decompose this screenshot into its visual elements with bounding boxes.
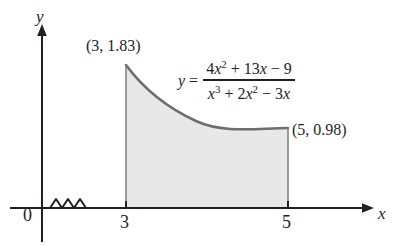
function-equation: y = 4x2 + 13x − 9 x3 + 2x2 − 3x <box>178 58 295 103</box>
axis-break-zigzag-icon <box>50 199 92 208</box>
numerator-const: 9 <box>284 60 292 77</box>
area-under-curve-figure: y x 0 3 5 (3, 1.83) (5, 0.98) y = 4x2 + … <box>0 0 394 246</box>
x-tick-label-3: 3 <box>120 213 129 231</box>
point-label-right: (5, 0.98) <box>292 122 347 138</box>
origin-label: 0 <box>23 206 32 224</box>
equation-lhs: y <box>178 72 189 90</box>
y-axis-label: y <box>36 8 44 25</box>
denominator-coef-3: 3 <box>275 85 283 102</box>
numerator-op-2: − <box>271 60 280 77</box>
equation-fraction: 4x2 + 13x − 9 x3 + 2x2 − 3x <box>203 58 295 103</box>
numerator-op-1-sym: + <box>231 60 240 77</box>
point-label-left: (3, 1.83) <box>86 38 141 54</box>
equation-equals-sign: = <box>189 72 203 90</box>
numerator-coef-1: 4 <box>206 60 214 77</box>
x-axis-arrowhead <box>362 203 374 213</box>
denominator-var-2: x <box>245 85 252 102</box>
denominator-var-1: x <box>208 85 215 102</box>
denominator-op-2: − <box>262 85 271 102</box>
equation-denominator: x3 + 2x2 − 3x <box>205 81 293 103</box>
numerator-var-2: x <box>260 60 267 77</box>
equation-numerator: 4x2 + 13x − 9 <box>203 58 295 79</box>
x-axis-label: x <box>378 205 386 222</box>
x-tick-label-5: 5 <box>282 213 291 231</box>
numerator-coef-2: 13 <box>244 60 260 77</box>
denominator-var-3: x <box>283 85 290 102</box>
